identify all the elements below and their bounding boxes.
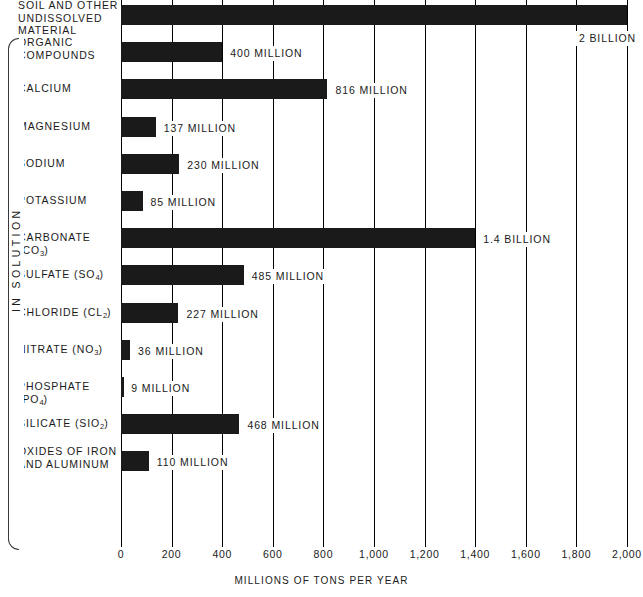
row-label: SULFATE (SO4): [18, 268, 120, 283]
row-label-line2: COMPOUNDS: [18, 49, 96, 61]
x-tick-label: 1,200: [410, 548, 440, 560]
formula-subscript: 4: [95, 273, 99, 282]
value-label: 485 MILLION: [248, 269, 327, 284]
tick-stub-200: [172, 534, 173, 547]
x-tick-label: 2,000: [612, 548, 642, 560]
value-label: 400 MILLION: [226, 46, 305, 61]
bar-chart: SOIL AND OTHERUNDISSOLVED MATERIALORGANI…: [0, 0, 643, 597]
gridline-1200: [425, 0, 426, 534]
gridline-1600: [526, 0, 527, 534]
formula-subscript: 3: [94, 348, 98, 357]
x-tick-label: 1,600: [511, 548, 541, 560]
tick-stub-2000: [627, 534, 628, 547]
tick-stub-400: [222, 534, 223, 547]
row-label-line1: MAGNESIUM: [18, 120, 91, 132]
row-label-line1: SOIL AND OTHER: [18, 0, 118, 11]
x-tick-label: 1,000: [359, 548, 389, 560]
value-label: 36 MILLION: [134, 344, 207, 359]
formula-tail: ): [107, 306, 111, 318]
formula-tail: ): [104, 417, 108, 429]
tick-stub-800: [323, 534, 324, 547]
row-label: PHOSPHATE (PO4): [18, 380, 120, 407]
bar: [121, 377, 124, 397]
formula-subscript: 3: [40, 249, 44, 258]
x-tick-label: 600: [263, 548, 283, 560]
x-axis-title: MILLIONS OF TONS PER YEAR: [0, 575, 643, 586]
bracket-dash-bottom: [8, 370, 9, 386]
bar: [121, 228, 475, 248]
value-label: 1.4 BILLION: [479, 232, 554, 247]
row-label: CHLORIDE (Cl2): [18, 306, 120, 321]
tick-stub-0: [121, 534, 122, 547]
row-label-line1: CALCIUM: [18, 82, 72, 94]
tick-stub-1200: [425, 534, 426, 547]
formula-subscript: 2: [103, 311, 107, 320]
row-label: SODIUM: [18, 157, 120, 170]
formula-subscript: 4: [39, 398, 43, 407]
row-label: CARBONATE (CO3): [18, 231, 120, 258]
row-label-line2: AND ALUMINUM: [18, 458, 109, 470]
row-label-line1: POTASSIUM: [18, 194, 87, 206]
value-label: 2 BILLION: [575, 31, 639, 46]
row-label: POTASSIUM: [18, 194, 120, 207]
tick-stub-1000: [374, 534, 375, 547]
row-label-line1: CARBONATE (CO: [18, 231, 91, 256]
formula-subscript: 2: [100, 422, 104, 431]
row-label: OXIDES OF IRONAND ALUMINUM: [18, 445, 120, 470]
in-solution-label: IN SOLUTION: [10, 212, 22, 312]
bar: [121, 265, 244, 285]
bar: [121, 5, 627, 25]
x-tick-label: 0: [118, 548, 125, 560]
bar: [121, 303, 178, 323]
x-tick-label: 1,800: [562, 548, 592, 560]
x-tick-label: 800: [314, 548, 334, 560]
row-label-line1: SULFATE (SO: [18, 268, 95, 280]
x-tick-label: 400: [212, 548, 232, 560]
gridline-1800: [576, 0, 577, 534]
formula-tail: ): [44, 393, 48, 405]
bracket-dash-top: [8, 207, 9, 223]
formula-tail: ): [100, 268, 104, 280]
formula-tail: ): [44, 244, 48, 256]
row-label: NITRATE (NO3): [18, 343, 120, 358]
value-label: 9 MILLION: [127, 381, 193, 396]
bar: [121, 42, 222, 62]
row-label-line2: UNDISSOLVED MATERIAL: [18, 12, 102, 37]
row-label: MAGNESIUM: [18, 120, 120, 133]
gridline-1400: [475, 0, 476, 534]
row-label-line1: PHOSPHATE (PO: [18, 380, 90, 405]
bar: [121, 191, 143, 211]
x-tick-label: 1,400: [460, 548, 490, 560]
row-label: ORGANICCOMPOUNDS: [18, 36, 120, 61]
value-label: 468 MILLION: [243, 418, 322, 433]
value-label: 137 MILLION: [160, 121, 239, 136]
row-label-line1: CHLORIDE (Cl: [18, 306, 103, 318]
value-label: 227 MILLION: [182, 307, 261, 322]
row-label-line1: OXIDES OF IRON: [18, 445, 117, 457]
bar: [121, 340, 130, 360]
tick-stub-1600: [526, 534, 527, 547]
row-label: SOIL AND OTHERUNDISSOLVED MATERIAL: [18, 0, 120, 37]
row-label-line1: SODIUM: [18, 157, 65, 169]
bar: [121, 117, 156, 137]
bar: [121, 451, 149, 471]
tick-stub-600: [273, 534, 274, 547]
bar: [121, 154, 179, 174]
gridline-1000: [374, 0, 375, 534]
tick-stub-1400: [475, 534, 476, 547]
value-label: 85 MILLION: [147, 195, 220, 210]
bar: [121, 414, 239, 434]
tick-stub-1800: [576, 534, 577, 547]
value-label: 110 MILLION: [153, 455, 232, 470]
formula-tail: ): [98, 343, 102, 355]
value-label: 816 MILLION: [331, 83, 410, 98]
row-label-line1: SILICATE (SiO: [18, 417, 100, 429]
row-label: SILICATE (SiO2): [18, 417, 120, 432]
bar: [121, 79, 327, 99]
row-label-line1: ORGANIC: [18, 36, 73, 48]
row-label-line1: NITRATE (NO: [18, 343, 94, 355]
row-label: CALCIUM: [18, 82, 120, 95]
x-tick-label: 200: [162, 548, 182, 560]
value-label: 230 MILLION: [183, 158, 262, 173]
gridline-2000: [627, 0, 628, 534]
